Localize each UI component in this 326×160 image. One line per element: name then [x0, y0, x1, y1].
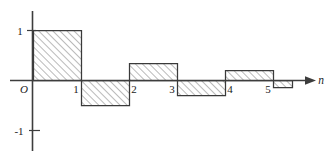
x-tick-label-4: 4 [227, 83, 233, 95]
y-tick-label-1: 1 [17, 25, 23, 37]
x-tick-label-5: 5 [265, 83, 271, 95]
bar-3 [178, 81, 226, 96]
step-sequence-figure: 1 -1 O 1 2 3 4 5 n [0, 0, 326, 160]
origin-label: O [20, 83, 28, 95]
x-tick-label-2: 2 [131, 83, 137, 95]
bar-2 [130, 64, 178, 81]
y-tick-label-neg1: -1 [14, 125, 23, 137]
x-axis-label: n [318, 74, 324, 86]
bar-1 [82, 81, 130, 106]
bar-4 [226, 71, 274, 81]
x-axis-arrow-icon [305, 76, 316, 85]
plot-canvas: 1 -1 O 1 2 3 4 5 n [0, 0, 326, 160]
x-tick-label-3: 3 [169, 83, 175, 95]
x-tick-label-1: 1 [73, 83, 79, 95]
bar-0 [34, 31, 82, 81]
bar-5 [274, 81, 293, 88]
